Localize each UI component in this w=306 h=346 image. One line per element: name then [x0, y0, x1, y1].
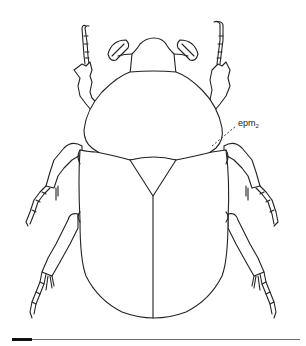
left-hindleg	[30, 214, 78, 318]
epm2-label: epm2	[238, 118, 259, 129]
right-hindleg	[228, 214, 276, 318]
beetle-illustration	[0, 0, 306, 346]
scale-bar	[12, 338, 300, 341]
epm-label-text: epm	[238, 118, 256, 128]
head	[108, 38, 198, 74]
epm-label-subscript: 2	[256, 123, 259, 129]
pronotum	[84, 71, 222, 160]
